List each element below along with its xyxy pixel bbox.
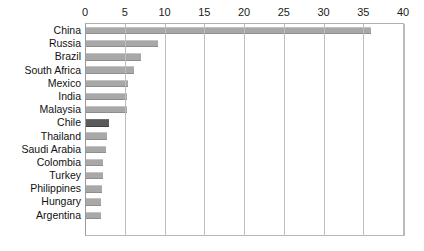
x-tick-label-10: 10 [158,5,170,19]
category-label-russia: Russia [49,37,81,50]
x-tick-label-35: 35 [357,5,369,19]
bar-india [86,93,127,100]
bar-row: Hungary [0,195,424,208]
bar-row: China [0,24,424,37]
x-tick-label-30: 30 [317,5,329,19]
x-tick-label-20: 20 [238,5,250,19]
x-axis-tick-labels: 0510152025303540 [0,5,424,21]
gridline-x-10 [165,24,166,235]
gridline-x-15 [204,24,205,235]
bar-chile [86,119,109,126]
bar-philippines [86,185,102,192]
x-tick-label-25: 25 [278,5,290,19]
category-label-turkey: Turkey [49,169,81,182]
category-label-china: China [54,24,81,37]
category-label-colombia: Colombia [37,156,81,169]
bar-malaysia [86,106,127,113]
bar-brazil [86,53,141,60]
bar-russia [86,40,158,47]
category-label-malaysia: Malaysia [40,103,81,116]
bar-row: Mexico [0,77,424,90]
category-label-hungary: Hungary [41,195,81,208]
bar-chart: 0510152025303540 ChinaRussiaBrazilSouth … [0,0,424,251]
bar-row: Argentina [0,209,424,222]
bar-row: India [0,90,424,103]
category-label-mexico: Mexico [48,77,81,90]
x-tick-label-0: 0 [82,5,88,19]
bar-row: Thailand [0,130,424,143]
bar-rows: ChinaRussiaBrazilSouth AfricaMexicoIndia… [0,24,424,235]
gridline-x-5 [125,24,126,235]
gridline-x-35 [363,24,364,235]
gridline-x-30 [324,24,325,235]
bar-row: Philippines [0,182,424,195]
bar-row: Turkey [0,169,424,182]
bar-row: Chile [0,116,424,129]
category-label-saudi-arabia: Saudi Arabia [21,143,81,156]
bar-turkey [86,172,103,179]
bar-row: Malaysia [0,103,424,116]
category-label-chile: Chile [57,116,81,129]
bar-row: Colombia [0,156,424,169]
category-label-argentina: Argentina [36,209,81,222]
bar-row: Russia [0,37,424,50]
bar-argentina [86,212,101,219]
bar-colombia [86,159,103,166]
category-label-india: India [58,90,81,103]
bar-mexico [86,80,128,87]
x-tick-label-5: 5 [122,5,128,19]
bar-china [86,27,371,34]
gridline-x-40 [403,24,404,235]
bar-saudi-arabia [86,146,106,153]
category-label-brazil: Brazil [55,50,81,63]
category-label-thailand: Thailand [41,130,81,143]
bar-thailand [86,132,107,139]
x-tick-label-15: 15 [198,5,210,19]
bar-row: South Africa [0,64,424,77]
x-tick-label-40: 40 [397,5,409,19]
bar-row: Saudi Arabia [0,143,424,156]
bar-south-africa [86,66,134,73]
gridline-x-20 [244,24,245,235]
bar-row: Brazil [0,50,424,63]
category-label-south-africa: South Africa [24,64,81,77]
bar-hungary [86,198,101,205]
gridline-x-25 [284,24,285,235]
category-label-philippines: Philippines [30,182,81,195]
